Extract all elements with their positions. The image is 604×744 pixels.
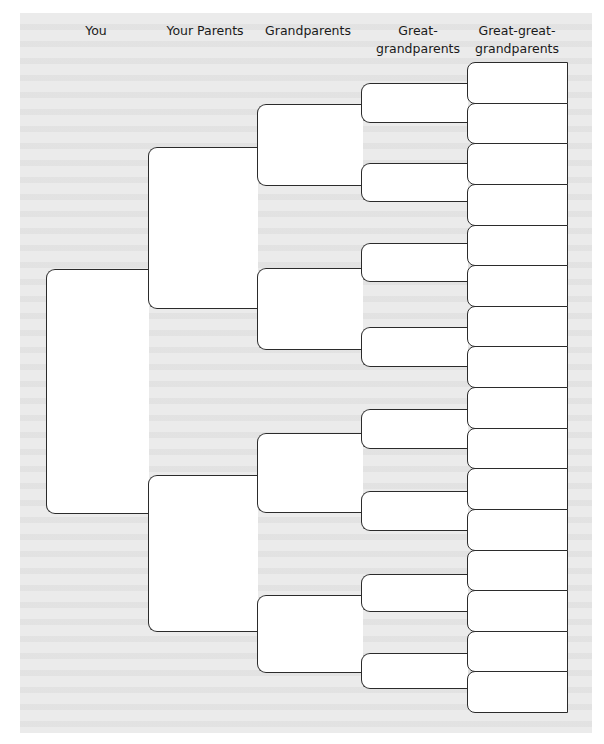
- header-grandparents-label: Grandparents: [265, 23, 351, 38]
- great-great-grandparent-box: [467, 387, 568, 429]
- great-great-grandparent-box: [467, 62, 568, 104]
- header-gggp-line1: Great-great-: [457, 22, 577, 40]
- great-great-grandparent-box: [467, 184, 568, 226]
- great-great-grandparent-box: [467, 428, 568, 470]
- great-great-grandparent-box: [467, 509, 568, 551]
- great-great-grandparent-box: [467, 103, 568, 145]
- header-grandparents: Grandparents: [248, 22, 368, 40]
- header-parents: Your Parents: [145, 22, 265, 40]
- great-grandparent-box: [361, 574, 468, 612]
- you-box: [46, 269, 149, 514]
- great-grandparent-box: [361, 653, 468, 689]
- header-parents-label: Your Parents: [166, 23, 243, 38]
- great-great-grandparent-box: [467, 631, 568, 673]
- great-grandparent-box: [361, 327, 468, 367]
- grandparent-box: [257, 433, 363, 513]
- great-great-grandparent-box: [467, 225, 568, 267]
- great-great-grandparent-box: [467, 346, 568, 388]
- great-great-grandparent-box: [467, 671, 568, 713]
- grandparent-box: [257, 104, 363, 186]
- great-grandparent-box: [361, 163, 468, 202]
- great-grandparent-box: [361, 83, 468, 123]
- header-you: You: [36, 22, 156, 40]
- header-gggp-line2: grandparents: [457, 40, 577, 58]
- great-great-grandparent-box: [467, 590, 568, 632]
- great-great-grandparent-box: [467, 306, 568, 348]
- header-great-great-grandparents: Great-great- grandparents: [457, 22, 577, 58]
- grandparent-box: [257, 268, 363, 350]
- great-great-grandparent-box: [467, 143, 568, 185]
- grandparent-box: [257, 595, 363, 673]
- great-great-grandparent-box: [467, 468, 568, 510]
- great-great-grandparent-box: [467, 265, 568, 307]
- great-great-grandparent-box: [467, 550, 568, 592]
- great-grandparent-box: [361, 243, 468, 282]
- great-grandparent-box: [361, 409, 468, 449]
- parent-box: [148, 475, 258, 632]
- header-you-label: You: [85, 23, 107, 38]
- parent-box: [148, 147, 258, 309]
- great-grandparent-box: [361, 491, 468, 531]
